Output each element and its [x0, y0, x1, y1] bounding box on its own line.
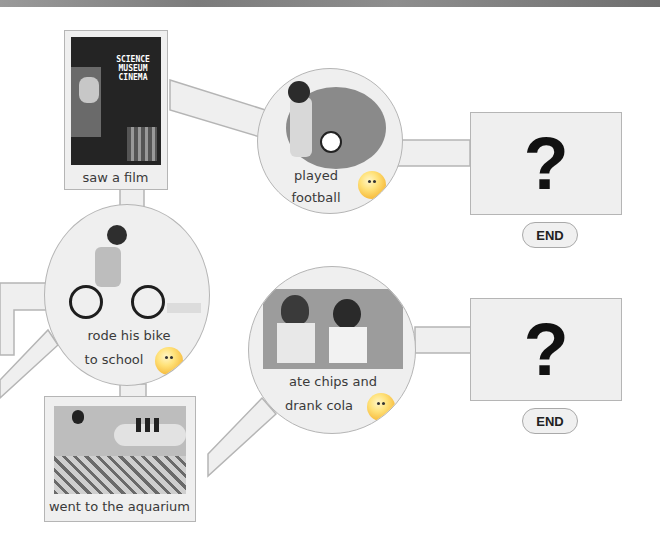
node-label-line1: ate chips and — [263, 371, 403, 393]
node-label-line2: drank cola — [263, 395, 375, 417]
player-figure — [290, 97, 312, 157]
node-aquarium[interactable]: went to the aquarium — [44, 396, 196, 522]
audience — [127, 127, 157, 161]
node-label-line2: football — [276, 187, 356, 209]
question-mark-icon: ? — [523, 313, 568, 387]
node-saw-a-film[interactable]: SCIENCE MUSEUM CINEMA saw a film — [64, 30, 168, 190]
aquarium-image — [54, 406, 186, 494]
question-mark-icon: ? — [523, 127, 568, 201]
mystery-ending-box-2[interactable]: ? — [470, 298, 622, 401]
node-label-line1: rode his bike — [59, 325, 199, 347]
penguin — [72, 410, 84, 424]
node-rode-bike[interactable]: rode his bike to school — [44, 204, 210, 386]
node-label: saw a film — [65, 167, 166, 189]
road — [167, 303, 201, 313]
end-button-1[interactable]: END — [522, 222, 578, 248]
end-button-2[interactable]: END — [522, 408, 578, 434]
football-ball — [320, 131, 342, 153]
rider-body — [95, 247, 121, 287]
smiley-face-icon[interactable] — [367, 393, 395, 421]
cinema-image: SCIENCE MUSEUM CINEMA — [71, 37, 161, 165]
bike-wheel-front — [131, 285, 165, 319]
fence — [54, 456, 186, 494]
boy-1-head — [281, 295, 309, 325]
mystery-ending-box-1[interactable]: ? — [470, 112, 622, 215]
node-label-line2: to school — [59, 349, 169, 371]
rider-helmet — [107, 225, 127, 245]
chips-image — [263, 289, 403, 369]
node-played-football[interactable]: played football — [257, 68, 403, 214]
boy-2-body — [329, 327, 367, 363]
node-label: went to the aquarium — [45, 496, 194, 518]
penguins-group — [136, 418, 160, 432]
node-ate-chips[interactable]: ate chips and drank cola — [248, 266, 416, 434]
smiley-face-icon[interactable] — [155, 347, 183, 375]
node-label-line1: played — [276, 165, 356, 187]
bike-image — [55, 225, 201, 320]
poster-text: SCIENCE MUSEUM CINEMA — [107, 55, 159, 82]
player-head — [288, 81, 310, 103]
boy-1-body — [277, 323, 315, 363]
boy-2-head — [333, 299, 361, 329]
bike-wheel-back — [69, 285, 103, 319]
dinosaur-shape — [79, 77, 99, 103]
smiley-face-icon[interactable] — [358, 171, 386, 199]
